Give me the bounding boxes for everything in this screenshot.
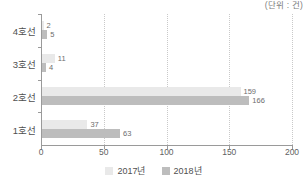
y-axis-category-labels: 4호선3호선2호선1호선 [0,14,36,145]
y-tick-mark [38,14,42,15]
x-tick-label: 150 [222,147,236,157]
bar-2017-1호선 [41,120,87,129]
y-axis-label-2line: 2호선 [13,90,36,104]
y-axis-label-3line: 3호선 [13,57,36,71]
chart-legend: 2017년2018년 [0,164,307,177]
y-tick-mark [38,80,42,81]
bar-2018-2호선 [41,96,249,105]
gridline [167,14,168,145]
bar-value-label: 63 [123,129,131,138]
legend-swatch-icon [162,167,170,175]
bar-value-label: 159 [244,87,257,96]
bar-2017-3호선 [41,54,55,63]
y-tick-mark [38,112,42,113]
y-tick-mark [38,47,42,48]
legend-item: 2017년 [105,164,145,177]
x-tick-label: 0 [39,147,44,157]
bar-2017-2호선 [41,87,241,96]
legend-label: 2017년 [117,164,145,177]
gridline [104,14,105,145]
legend-label: 2018년 [174,164,202,177]
y-axis-label-1line: 1호선 [13,123,36,137]
bar-value-label: 4 [49,63,53,72]
legend-swatch-icon [105,167,113,175]
bar-value-label: 37 [90,120,98,129]
bar-2018-1호선 [41,129,120,138]
legend-item: 2018년 [162,164,202,177]
bar-value-label: 5 [50,30,54,39]
bar-value-label: 11 [58,54,66,63]
y-axis-label-4line: 4호선 [13,24,36,38]
unit-note: (단위 : 건) [265,0,303,10]
x-tick-label: 200 [285,147,299,157]
gridline [292,14,293,145]
x-axis-tick-labels: 050100150200 [41,147,292,159]
bar-value-label: 2 [47,21,51,30]
bar-value-label: 166 [252,96,265,105]
x-tick-label: 50 [99,147,108,157]
horizontal-bar-chart: (단위 : 건) 4호선3호선2호선1호선 251141591663763 05… [0,0,307,181]
plot-area: 251141591663763 [41,14,292,145]
x-tick-label: 100 [159,147,173,157]
gridline [229,14,230,145]
